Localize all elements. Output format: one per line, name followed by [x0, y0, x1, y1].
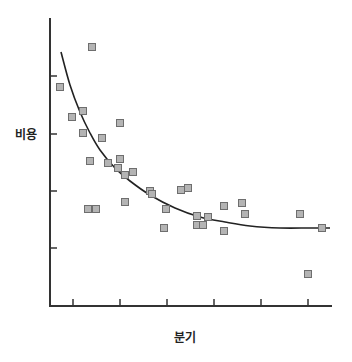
data-point [57, 84, 64, 91]
data-point [80, 130, 87, 137]
data-point [319, 225, 326, 232]
data-point [194, 213, 201, 220]
data-points [57, 44, 326, 278]
scatter-chart [0, 0, 352, 362]
data-point [87, 158, 94, 165]
data-point [221, 228, 228, 235]
data-point [185, 185, 192, 192]
data-point [178, 187, 185, 194]
data-point [80, 108, 87, 115]
data-point [122, 199, 129, 206]
data-point [93, 206, 100, 213]
data-point [161, 225, 168, 232]
data-point [115, 165, 122, 172]
data-point [242, 211, 249, 218]
data-point [117, 156, 124, 163]
data-point [239, 200, 246, 207]
x-axis-label: 분기 [174, 328, 196, 345]
data-point [221, 203, 228, 210]
data-point [117, 120, 124, 127]
data-point [89, 44, 96, 51]
data-point [85, 206, 92, 213]
data-point [99, 135, 106, 142]
x-ticks [73, 299, 308, 306]
data-point [200, 222, 207, 229]
data-point [122, 172, 129, 179]
y-axis-label: 비용 [15, 125, 37, 142]
data-point [105, 160, 112, 167]
data-point [305, 271, 312, 278]
y-ticks [50, 76, 57, 248]
data-point [149, 191, 156, 198]
data-point [130, 169, 137, 176]
data-point [297, 211, 304, 218]
data-point [205, 214, 212, 221]
data-point [69, 114, 76, 121]
data-point [163, 206, 170, 213]
